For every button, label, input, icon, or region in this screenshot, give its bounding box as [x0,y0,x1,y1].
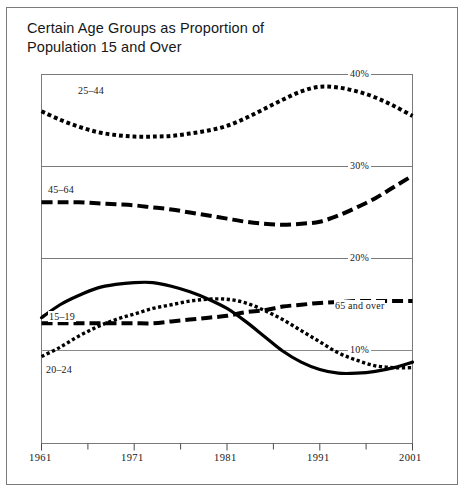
pct-label-30: 30% [348,160,371,171]
x-axis-label-1961: 1961 [29,452,52,463]
chart-figure: Certain Age Groups as Proportion of Popu… [0,0,465,492]
series-label-25-44: 25–44 [77,85,105,96]
plot-area [0,0,465,492]
series-label-45-64: 45–64 [47,184,75,195]
x-axis-label-1971: 1971 [121,452,144,463]
x-axis-ticks [42,444,413,451]
series-label-65-and-over: 65 and over [334,300,385,311]
x-axis-label-1981: 1981 [214,452,237,463]
pct-label-20: 20% [348,252,371,263]
series-label-20-24: 20–24 [45,364,73,375]
x-axis-label-1991: 1991 [307,452,330,463]
series-label-15-19: 15–19 [48,311,76,322]
x-axis-label-2001: 2001 [399,452,422,463]
pct-label-40: 40% [348,68,371,79]
series-line-45-64 [42,176,413,225]
data-series-layer [42,87,413,374]
pct-label-10: 10% [348,344,371,355]
